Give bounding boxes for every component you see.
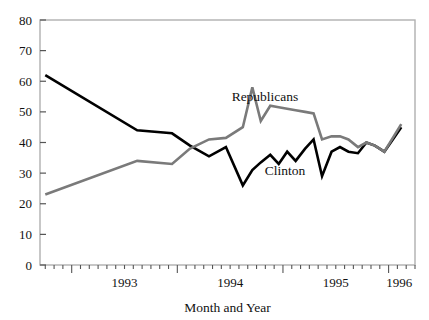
series-label-republicans: Republicans xyxy=(232,89,299,104)
x-axis-tick-label: 1994 xyxy=(217,275,244,290)
chart-container: 010203040506070801993199419951996Month a… xyxy=(0,0,429,320)
x-axis-title: Month and Year xyxy=(184,300,271,315)
series-line-clinton xyxy=(45,75,401,185)
y-axis-tick-label: 10 xyxy=(19,227,32,242)
x-axis-tick-label: 1996 xyxy=(386,275,413,290)
plot-frame xyxy=(40,20,415,265)
series-line-republicans xyxy=(45,87,401,194)
y-axis-tick-label: 70 xyxy=(19,43,32,58)
y-axis-tick-label: 60 xyxy=(19,74,32,89)
x-axis-tick-label: 1993 xyxy=(112,275,138,290)
y-axis-tick-label: 20 xyxy=(19,196,32,211)
y-axis-tick-label: 50 xyxy=(19,104,32,119)
y-axis-tick-label: 0 xyxy=(26,258,33,273)
line-chart: 010203040506070801993199419951996Month a… xyxy=(0,0,429,320)
y-axis-tick-label: 80 xyxy=(19,13,32,28)
x-axis-tick-label: 1995 xyxy=(323,275,349,290)
y-axis-tick-label: 40 xyxy=(19,135,32,150)
y-axis-tick-label: 30 xyxy=(19,166,32,181)
series-label-clinton: Clinton xyxy=(265,163,306,178)
